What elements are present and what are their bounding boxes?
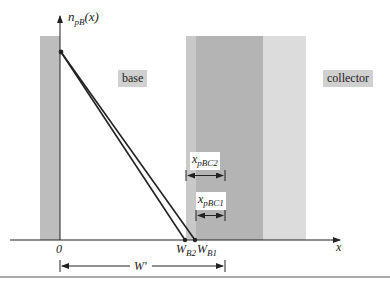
- wb1-label: WB1: [197, 242, 217, 258]
- y-axis-label: npB(x): [68, 9, 99, 27]
- y-axis-label-sub: pB: [75, 17, 85, 27]
- xpbc1-label: xpBC1: [196, 192, 226, 210]
- xpbc2-label: xpBC2: [190, 152, 220, 170]
- start-point: [59, 50, 64, 55]
- collector-label: collector: [323, 70, 373, 87]
- origin-label: 0: [56, 242, 62, 257]
- wb2-label: WB2: [176, 242, 196, 258]
- wb1-label-main: W: [197, 242, 207, 256]
- xpbc1-label-sub: pBC1: [203, 198, 224, 208]
- collector-region-light: [263, 36, 306, 240]
- w-prime-label: W': [134, 259, 147, 274]
- emitter-depletion-region: [40, 36, 60, 240]
- wb2-label-sub: B2: [186, 248, 196, 258]
- depletion-region-light: [186, 36, 196, 240]
- base-label: base: [118, 70, 147, 87]
- xpbc2-label-sub: pBC2: [197, 158, 218, 168]
- x-axis-label: x: [336, 240, 341, 255]
- wb2-label-main: W: [176, 242, 186, 256]
- y-axis-label-arg: (x): [85, 9, 99, 24]
- wb1-label-sub: B1: [207, 248, 217, 258]
